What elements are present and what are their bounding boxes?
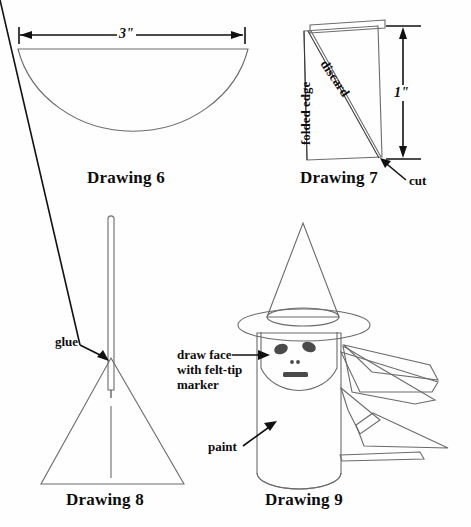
wing-lower <box>356 413 448 448</box>
eye-right <box>301 340 317 354</box>
cone-shape <box>41 358 184 484</box>
caption-drawing-9: Drawing 9 <box>265 490 343 510</box>
label-folded-edge: folded edge <box>298 82 314 145</box>
label-draw-face-line-3: marker <box>177 377 242 392</box>
drawing-6-artwork <box>18 27 248 131</box>
label-draw-face: draw face with felt-tip marker <box>177 347 242 392</box>
eye-left <box>273 342 290 356</box>
wing-middle <box>343 346 435 404</box>
glue-callout-line-hidden <box>0 0 80 345</box>
label-cut: cut <box>409 173 426 188</box>
nose-dot-left <box>290 360 294 364</box>
wing-upper-front <box>341 352 438 392</box>
wing-fold <box>341 388 380 434</box>
dimension-label-3in: 3" <box>117 26 136 42</box>
body-bottom-arc <box>257 473 341 489</box>
label-draw-face-line-2: with felt-tip <box>177 362 242 377</box>
dimension-label-1in: 1" <box>392 85 411 101</box>
hat-cone <box>267 223 339 317</box>
wing-lower-edge <box>340 452 424 461</box>
label-draw-face-line-1: draw face <box>177 347 242 362</box>
caption-drawing-6: Drawing 6 <box>87 168 165 188</box>
glue-callout-arrowhead <box>97 350 109 361</box>
body-cylinder <box>257 333 341 489</box>
caption-drawing-7: Drawing 7 <box>300 168 378 188</box>
hat-brim <box>238 309 370 341</box>
semicircle-shape <box>18 49 248 131</box>
stick-shape <box>108 216 114 390</box>
mouth <box>283 372 308 377</box>
nose-dot-right <box>296 360 300 364</box>
drawing-9-artwork <box>232 223 448 489</box>
face-callout-arrowhead <box>258 350 270 360</box>
label-glue: glue <box>55 334 78 349</box>
caption-drawing-8: Drawing 8 <box>66 490 144 510</box>
drawing-sheet: 3" Drawing 6 folded edge discard 1" cut … <box>0 0 471 527</box>
dimension-arrow-down <box>399 146 407 158</box>
dimension-arrow-right <box>231 31 243 39</box>
dimension-arrow-left <box>20 31 32 39</box>
dimension-arrow-up <box>399 27 407 39</box>
label-paint: paint <box>208 439 237 454</box>
